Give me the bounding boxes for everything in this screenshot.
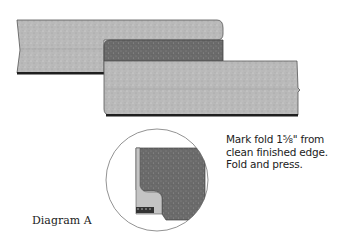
- lower-fabric-strip: [104, 61, 300, 117]
- instruction-line-1: Mark fold 1⅝" from: [226, 133, 324, 145]
- fold-diagram: [0, 0, 339, 241]
- folded-back-dark-band: [104, 40, 223, 61]
- detail-magnifier-circle: [106, 129, 208, 231]
- instruction-line-2: clean finished edge.: [226, 146, 328, 158]
- fold-instructions: Mark fold 1⅝" from clean finished edge. …: [226, 133, 328, 171]
- diagram-caption: Diagram A: [32, 214, 92, 227]
- instruction-line-3: Fold and press.: [226, 158, 303, 170]
